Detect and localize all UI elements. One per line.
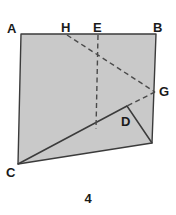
vertex-label-g: G — [159, 85, 169, 98]
vertex-label-b: B — [153, 21, 162, 34]
vertex-label-a: A — [7, 22, 16, 35]
geometry-figure: A H E B G D C 4 — [0, 0, 176, 215]
figure-caption: 4 — [0, 192, 176, 205]
vertex-label-c: C — [6, 166, 15, 179]
geometry-diagram — [0, 0, 176, 215]
quadrilateral-abfc — [18, 34, 156, 164]
vertex-label-h: H — [61, 21, 70, 34]
vertex-label-e: E — [93, 21, 102, 34]
vertex-label-d: D — [121, 115, 130, 128]
